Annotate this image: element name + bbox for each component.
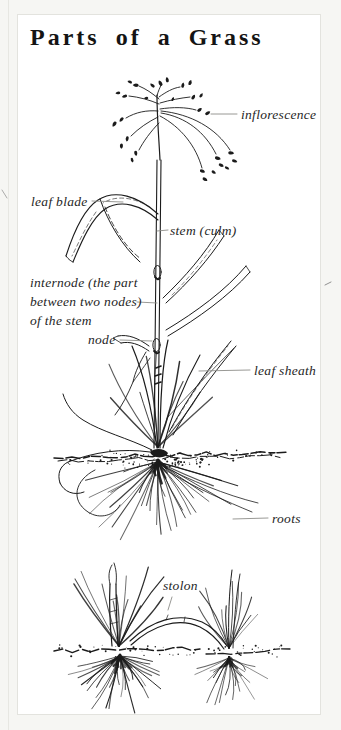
stolon-leader [168, 597, 172, 610]
label-node: node [88, 330, 115, 349]
label-internode-line2: between two nodes) [30, 292, 142, 311]
leaf-blade-leader [92, 201, 123, 202]
leaf-sheath-leader [199, 370, 250, 371]
label-internode-line1: internode (the part [30, 273, 142, 292]
page-title: Parts of a Grass [30, 24, 264, 51]
leaf-sheath-drawing [113, 230, 250, 435]
roots-drawing [77, 449, 258, 539]
label-stolon: stolon [163, 576, 198, 595]
label-roots: roots [272, 509, 301, 528]
label-internode-line3: of the stem [30, 311, 142, 330]
label-internode: internode (the part between two nodes) o… [30, 273, 142, 330]
stem-leader [157, 230, 168, 231]
left-clump-drawing [74, 563, 164, 646]
inflorescence-drawing [111, 77, 237, 182]
stolon-roots-drawing [68, 655, 267, 713]
roots-leader [233, 518, 268, 519]
right-clump-drawing [199, 570, 258, 648]
ground-line-lower [54, 644, 290, 657]
book-page: Parts of a Grass inflorescence leaf blad… [0, 0, 341, 730]
label-stem-culm: stem (culm) [170, 221, 237, 240]
spikelet-cluster [111, 77, 237, 182]
node-leader [120, 340, 152, 341]
label-leaf-blade: leaf blade [31, 192, 88, 211]
label-inflorescence: inflorescence [241, 105, 316, 124]
label-leaf-sheath: leaf sheath [254, 361, 316, 380]
